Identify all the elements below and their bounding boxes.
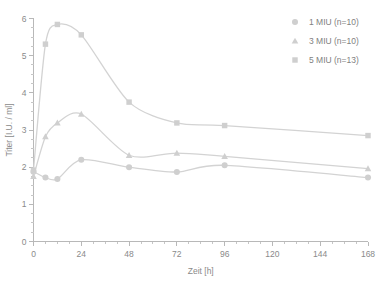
data-point-square — [43, 41, 48, 46]
data-point-triangle — [126, 152, 133, 158]
x-axis-tick-label: 0 — [31, 249, 36, 259]
x-axis-tick-label: 168 — [361, 249, 375, 259]
x-axis-tick-label: 24 — [77, 249, 87, 259]
x-axis-tick-label: 72 — [172, 249, 182, 259]
y-axis-tick-label: 0 — [22, 237, 27, 247]
titer-time-line-chart: 0123456024487296120144168 1 MIU (n=10)3 … — [0, 0, 381, 282]
data-point-circle — [126, 164, 132, 170]
y-axis-tick-label: 6 — [22, 14, 27, 24]
y-axis-tick-label: 4 — [22, 88, 27, 98]
x-axis-tick-label: 144 — [313, 249, 327, 259]
legend-item-1: 1 MIU (n=10) — [292, 17, 359, 27]
series-1 — [30, 157, 371, 182]
x-axis-tick-label: 96 — [220, 249, 230, 259]
series-2 — [30, 111, 371, 179]
data-point-square — [55, 22, 60, 27]
data-point-circle — [365, 175, 371, 181]
axes-group: 0123456024487296120144168 — [22, 14, 376, 259]
y-axis-tick-label: 2 — [22, 162, 27, 172]
legend-label: 3 MIU (n=10) — [309, 36, 359, 46]
series-line-1 — [34, 159, 369, 180]
data-point-square — [365, 133, 370, 138]
y-axis-tick-label: 5 — [22, 51, 27, 61]
y-axis-tick-label: 1 — [22, 199, 27, 209]
data-point-square — [174, 120, 179, 125]
data-point-circle — [174, 169, 180, 175]
x-axis-tick-label: 48 — [124, 249, 134, 259]
data-point-triangle — [30, 173, 37, 179]
data-point-circle — [42, 175, 48, 181]
data-point-square — [126, 99, 131, 104]
legend-marker-circle-icon — [292, 19, 298, 25]
data-point-circle — [54, 176, 60, 182]
legend-item-2: 3 MIU (n=10) — [292, 36, 359, 46]
y-axis-tick-label: 3 — [22, 125, 27, 135]
x-axis-tick-label: 120 — [265, 249, 279, 259]
data-point-circle — [78, 157, 84, 163]
chart-container: 0123456024487296120144168 1 MIU (n=10)3 … — [0, 0, 381, 282]
legend-item-3: 5 MIU (n=13) — [292, 55, 359, 65]
y-axis-title: Titer [I.U. / ml] — [4, 103, 14, 156]
data-point-square — [222, 123, 227, 128]
data-point-triangle — [42, 133, 49, 139]
data-point-square — [79, 32, 84, 37]
legend-marker-triangle-icon — [292, 38, 299, 44]
chart-legend: 1 MIU (n=10)3 MIU (n=10)5 MIU (n=13) — [292, 17, 359, 65]
legend-label: 1 MIU (n=10) — [309, 17, 359, 27]
legend-marker-square-icon — [292, 57, 297, 62]
legend-label: 5 MIU (n=13) — [309, 55, 359, 65]
data-point-circle — [222, 162, 228, 168]
data-point-square — [31, 167, 36, 172]
x-axis-title: Zeit [h] — [188, 266, 214, 276]
